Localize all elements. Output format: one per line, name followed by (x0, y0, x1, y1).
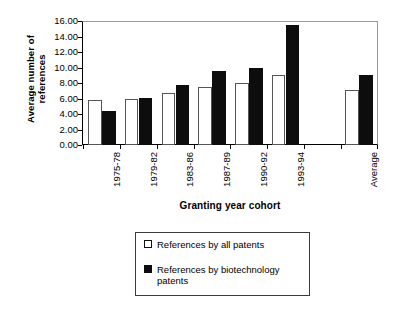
bar-series-container (83, 21, 377, 145)
y-tick-mark (78, 145, 82, 146)
bar (345, 90, 359, 145)
y-tick-label: 8.00 (36, 78, 78, 88)
bar-group (120, 21, 157, 145)
legend-label: References by all patents (157, 239, 264, 251)
y-axis-tick-labels: 16.0014.0012.0010.008.006.004.002.000.00 (34, 21, 78, 145)
bar (125, 99, 139, 145)
x-tick-mark (267, 145, 268, 149)
x-tick-mark (230, 145, 231, 149)
bar-group (157, 21, 194, 145)
x-tick-mark (194, 145, 195, 149)
bar (286, 25, 300, 145)
bar (198, 87, 212, 145)
bar (212, 71, 226, 145)
legend-item-all-patents: References by all patents (144, 239, 301, 251)
x-tick-mark (120, 145, 121, 149)
y-tick-label: 14.00 (36, 32, 78, 42)
chart-legend: References by all patents References by … (135, 232, 310, 296)
x-tick-mark (341, 145, 342, 149)
y-tick-label: 16.00 (36, 16, 78, 26)
y-tick-label: 10.00 (36, 63, 78, 73)
bar (176, 85, 190, 145)
bar (139, 98, 153, 145)
bar (235, 83, 249, 145)
bar-group (83, 21, 120, 145)
y-tick-label: 6.00 (36, 94, 78, 104)
legend-swatch-light-icon (144, 240, 152, 248)
y-tick-label: 0.00 (36, 140, 78, 150)
y-tick-label: 4.00 (36, 109, 78, 119)
y-tick-label: 12.00 (36, 47, 78, 57)
bar (162, 93, 176, 145)
bar (249, 68, 263, 146)
bar-group (304, 21, 341, 145)
legend-label: References by biotechnology patents (157, 264, 301, 287)
bar-group (341, 21, 378, 145)
bar (102, 111, 116, 145)
bar (272, 75, 286, 145)
x-tick-mark (377, 145, 378, 149)
x-tick-mark (304, 145, 305, 149)
x-tick-mark (157, 145, 158, 149)
bar-group (194, 21, 231, 145)
y-tick-label: 2.00 (36, 125, 78, 135)
bar-group (267, 21, 304, 145)
legend-item-biotech-patents: References by biotechnology patents (144, 264, 301, 287)
bar (88, 100, 102, 145)
bar-group (230, 21, 267, 145)
x-axis-title: Granting year cohort (82, 200, 378, 211)
chart-figure: Average number of references 16.0014.001… (0, 0, 399, 310)
legend-swatch-dark-icon (144, 265, 152, 273)
bar (359, 75, 373, 145)
x-tick-mark (83, 145, 84, 149)
